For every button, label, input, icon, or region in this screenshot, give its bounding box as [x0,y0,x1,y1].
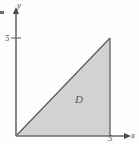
y-axis-tick-label-5: 5 [5,34,10,43]
y-axis-label: y [17,1,21,10]
x-axis-arrowhead-icon [124,133,131,139]
region-label-d: D [75,94,83,105]
coordinate-plane-figure [0,0,139,144]
figure-container: y x 5 5 D [0,0,139,144]
x-axis-label: x [131,131,135,140]
scan-artifact-speck [0,11,4,14]
x-axis-tick-label-5: 5 [108,134,113,143]
